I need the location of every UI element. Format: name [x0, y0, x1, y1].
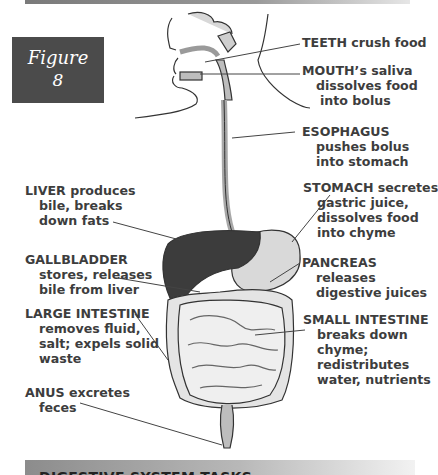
label-pancreas: PANCREAS releases digestive juices [302, 255, 427, 300]
label-stomach: STOMACH secretes gastric juice, dissolve… [303, 180, 438, 240]
label-liver: LIVER produces bile, breaks down fats [25, 183, 136, 228]
label-anus: ANUS excretes feces [25, 385, 130, 415]
section-banner: DIGESTIVE SYSTEM TASKS [25, 460, 415, 475]
label-large-intestine: LARGE INTESTINE removes fluid, salt; exp… [25, 306, 159, 366]
label-teeth: TEETH crush food [302, 35, 427, 50]
label-esophagus: ESOPHAGUS pushes bolus into stomach [302, 124, 409, 169]
label-mouth: MOUTH’s saliva dissolves food into bolus [302, 63, 418, 108]
label-gallbladder: GALLBLADDER stores, releases bile from l… [25, 252, 152, 297]
section-banner-title: DIGESTIVE SYSTEM TASKS [39, 469, 252, 475]
label-small-intestine: SMALL INTESTINE breaks down chyme; redis… [303, 312, 431, 387]
